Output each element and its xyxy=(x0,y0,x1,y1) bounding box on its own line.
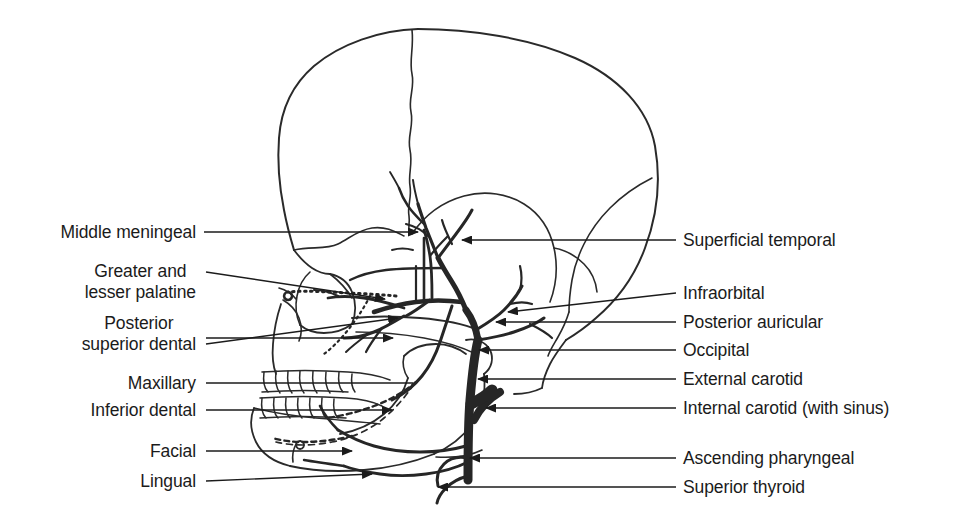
supraorbital-rim xyxy=(294,250,330,274)
nasal-bone xyxy=(279,288,296,299)
maxilla-anterior xyxy=(273,304,281,374)
superior-thyroid-artery xyxy=(437,476,468,503)
mandibular-canal-dashed xyxy=(276,384,414,445)
upper-teeth xyxy=(262,371,355,393)
label-greater-lesser-palatine: Greater andlesser palatine xyxy=(85,261,196,303)
occipital-branch xyxy=(530,324,552,338)
leader-maxillary-diag xyxy=(206,318,398,344)
skull-artery-illustration xyxy=(0,0,955,514)
label-posterior-auricular: Posterior auricular xyxy=(683,312,823,333)
label-lingual: Lingual xyxy=(140,471,196,492)
label-superficial-temporal: Superficial temporal xyxy=(683,230,836,251)
label-line: superior dental xyxy=(82,334,196,355)
mental-branch xyxy=(293,444,296,462)
superficial-temporal-parietal xyxy=(438,210,472,258)
coronal-suture xyxy=(409,30,413,234)
mastoid-outline xyxy=(542,340,566,388)
sup-temporal-branch-f xyxy=(392,249,413,251)
leader-lines xyxy=(204,232,676,487)
sup-temporal-branch-d xyxy=(413,180,418,204)
label-line: Posterior xyxy=(82,313,196,334)
label-occipital: Occipital xyxy=(683,340,749,361)
label-ascending-pharyngeal: Ascending pharyngeal xyxy=(683,448,854,469)
label-internal-carotid: Internal carotid (with sinus) xyxy=(683,398,889,419)
mandible-notch xyxy=(403,356,408,378)
mandible-body-lower xyxy=(290,454,434,471)
label-line: Facial xyxy=(150,441,196,462)
label-line: Maxillary xyxy=(128,373,196,394)
label-posterior-superior-dental: Posteriorsuperior dental xyxy=(82,313,196,355)
label-line: Lingual xyxy=(140,471,196,492)
lower-teeth xyxy=(260,398,346,418)
lingual-artery-forward xyxy=(304,460,344,466)
posterior-auricular-up xyxy=(520,266,522,290)
palatine-node xyxy=(284,292,292,300)
lambdoid-suture xyxy=(569,178,652,312)
orbit-lateral-wall xyxy=(330,274,355,324)
skull-bone-outline xyxy=(251,29,658,471)
label-middle-meningeal: Middle meningeal xyxy=(60,222,196,243)
label-maxillary: Maxillary xyxy=(128,373,196,394)
posterior-auricular-branch xyxy=(510,303,532,305)
external-carotid xyxy=(466,310,478,340)
sup-temporal-branch-e xyxy=(390,172,399,188)
temporal-line xyxy=(294,228,404,250)
label-superior-thyroid: Superior thyroid xyxy=(683,477,805,498)
figure-canvas: Middle meningealGreater andlesser palati… xyxy=(0,0,955,514)
label-facial: Facial xyxy=(150,441,196,462)
facial-artery xyxy=(338,430,466,452)
zygomatic-arch xyxy=(352,317,478,331)
label-inferior-dental: Inferior dental xyxy=(90,400,196,421)
label-external-carotid: External carotid xyxy=(683,369,803,390)
label-line: Middle meningeal xyxy=(60,222,196,243)
posterior-auricular-artery xyxy=(476,286,522,330)
occipital-base xyxy=(514,388,542,394)
frontal-bone-outline xyxy=(278,29,418,250)
facial-artery-dotted xyxy=(272,436,352,442)
label-line: Inferior dental xyxy=(90,400,196,421)
label-infraorbital: Infraorbital xyxy=(683,283,764,304)
parietal-temporal-suture xyxy=(554,248,597,292)
label-line: lesser palatine xyxy=(85,282,196,303)
cranial-vault-outline xyxy=(418,29,658,340)
label-line: Greater and xyxy=(85,261,196,282)
zygomatic-arch-lower xyxy=(356,332,476,354)
leader-lingual xyxy=(206,474,372,481)
leader-infraorbital xyxy=(508,293,676,312)
